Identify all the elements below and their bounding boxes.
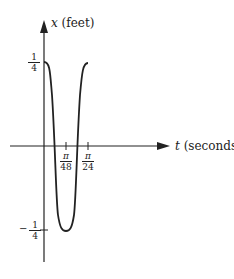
frac-num: 1 [32,220,38,230]
frac-den: 4 [31,63,37,73]
x-tick-label-pi24: π 24 [82,151,94,172]
x-tick-label-pi48: π 48 [60,151,72,172]
y-axis-unit: (feet) [62,16,95,30]
y-axis-var: x [51,16,58,30]
y-axis-arrow-icon [40,20,48,33]
x-axis-unit: (seconds) [184,139,234,153]
frac-den: 24 [82,162,93,172]
x-axis-label: t (seconds) [175,139,234,153]
x-axis-arrow-icon [157,142,170,150]
frac-num: π [63,151,69,161]
y-tick-label-top: 1 4 [28,52,40,73]
y-tick-label-bottom: 1 4 [29,220,41,241]
y-axis-label: x (feet) [51,16,94,30]
frac-num: π [85,151,91,161]
x-axis-var: t [175,139,180,153]
y-tick-neg-sign: − [19,223,27,234]
frac-den: 4 [32,231,38,241]
chart: x (feet) t (seconds) 1 4 − 1 4 π 48 π 24 [0,0,234,279]
frac-num: 1 [31,52,37,62]
frac-den: 48 [60,162,71,172]
